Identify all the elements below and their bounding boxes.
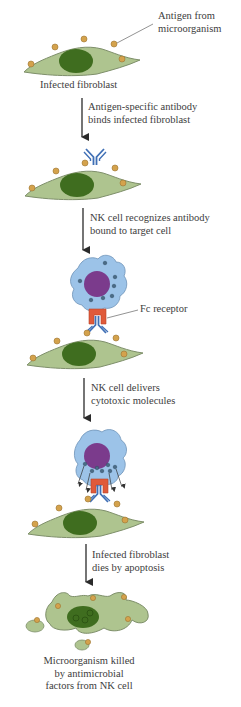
antigen-callout-line — [117, 24, 153, 43]
antigen — [113, 335, 119, 341]
step-1-label: Antigen-specific antibody binds infected… — [88, 101, 197, 126]
infected-fibroblast-label: Infected fibroblast — [40, 79, 117, 92]
antigen — [56, 505, 62, 511]
antigen — [122, 517, 128, 523]
antigen — [29, 185, 35, 191]
infected-fibroblast — [28, 509, 144, 537]
fragmented-nucleus — [67, 606, 99, 628]
antigen — [30, 355, 36, 361]
antigen — [125, 616, 130, 621]
antigen — [54, 338, 60, 344]
antigen — [85, 639, 90, 644]
nk-cell — [71, 255, 127, 311]
step-4-label: Infected fibroblast dies by apoptosis — [92, 549, 169, 574]
antigen-callout-label: Antigen from microorganism — [158, 10, 221, 35]
fc-receptor-label: Fc receptor — [140, 303, 188, 316]
antigen — [53, 168, 59, 174]
antigen — [28, 61, 34, 67]
step-2-label: NK cell recognizes antibody bound to tar… — [90, 212, 210, 237]
antigen — [112, 165, 118, 171]
antigen — [111, 41, 117, 47]
antigen — [82, 160, 88, 166]
antigen — [119, 56, 125, 62]
antigen — [121, 351, 127, 357]
step-3-label: NK cell delivers cytotoxic molecules — [91, 382, 175, 407]
antigen — [84, 330, 90, 336]
fc-receptor — [89, 309, 106, 324]
antigen — [52, 44, 58, 50]
antigen — [121, 594, 126, 599]
nk-nucleus — [84, 271, 110, 297]
final-outcome-label: Microorganism killed by antimicrobial fa… — [34, 655, 144, 693]
fc-receptor-callout-line — [107, 310, 138, 318]
antigen — [114, 501, 120, 507]
antigen — [32, 521, 38, 527]
antigen — [90, 595, 95, 600]
antigen — [120, 180, 126, 186]
antigen — [34, 617, 39, 622]
antigen — [55, 603, 60, 608]
antigen — [85, 496, 91, 502]
antigen — [81, 36, 87, 42]
